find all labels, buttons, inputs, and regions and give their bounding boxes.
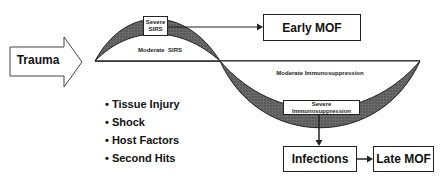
severe-immunosuppression-box: Severe Immunosuppression — [283, 100, 360, 115]
moderate-immunosuppression-label: Moderate Immunosuppression — [270, 70, 370, 77]
early-mof-box: Early MOF — [263, 14, 361, 41]
severe-immuno-line2: Immunosuppression — [292, 108, 351, 115]
severe-sirs-line2: SIRS — [148, 26, 162, 33]
severe-immuno-line1: Severe — [312, 101, 332, 108]
factor-item: • Host Factors — [105, 131, 180, 149]
late-mof-label: Late MOF — [376, 152, 431, 166]
infections-label: Infections — [292, 152, 349, 166]
severe-sirs-line1: Severe — [146, 19, 166, 26]
factors-list: • Tissue Injury • Shock • Host Factors •… — [105, 95, 180, 167]
severe-sirs-box: Severe SIRS — [143, 16, 168, 36]
factor-item: • Tissue Injury — [105, 95, 180, 113]
early-mof-label: Early MOF — [282, 21, 341, 35]
trauma-label: Trauma — [14, 53, 62, 67]
moderate-sirs-label: Moderate SIRS — [130, 47, 190, 54]
infections-box: Infections — [283, 146, 357, 172]
late-mof-box: Late MOF — [373, 146, 434, 172]
factor-item: • Second Hits — [105, 149, 180, 167]
factor-item: • Shock — [105, 113, 180, 131]
